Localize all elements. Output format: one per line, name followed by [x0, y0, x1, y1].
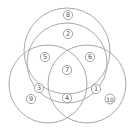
region-label: 6	[88, 53, 92, 61]
region-badge-10: 10	[105, 94, 115, 104]
region-badge-5: 5	[40, 52, 49, 61]
region-badge-4: 4	[62, 93, 71, 102]
region-label: 2	[66, 30, 70, 38]
region-label: 3	[37, 84, 41, 92]
region-badge-3: 3	[34, 83, 43, 92]
region-badge-2: 2	[63, 29, 72, 38]
region-label: 8	[66, 11, 70, 19]
region-label: 5	[43, 53, 47, 61]
region-badge-1: 1	[91, 84, 100, 93]
region-label: 4	[65, 94, 69, 102]
region-badge-8: 8	[63, 10, 72, 19]
region-badge-6: 6	[85, 52, 94, 61]
region-labels: 8 2 5 6 7 3 1 9	[26, 10, 115, 104]
region-label: 9	[29, 95, 33, 103]
region-label: 10	[106, 96, 114, 103]
region-label: 7	[65, 66, 69, 74]
region-badge-9: 9	[26, 94, 35, 103]
region-badge-7: 7	[62, 65, 71, 74]
region-label: 1	[94, 85, 98, 93]
venn-diagram: 8 2 5 6 7 3 1 9	[0, 0, 137, 130]
